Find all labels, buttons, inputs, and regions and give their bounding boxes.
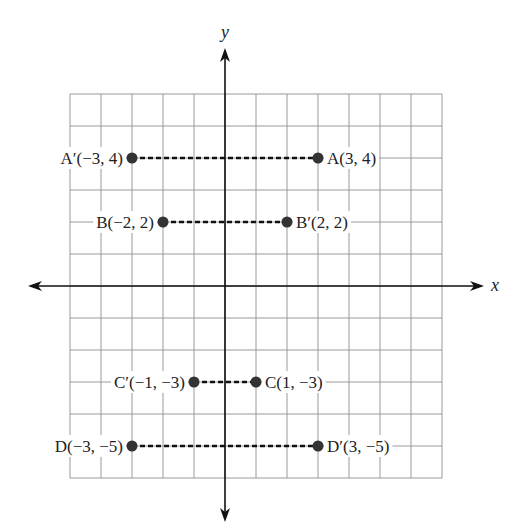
point-marker	[282, 217, 293, 228]
point-label: A(3, 4)	[327, 149, 376, 168]
point-marker	[127, 153, 138, 164]
point-label: D(−3, −5)	[55, 437, 123, 456]
point-label: B′(2, 2)	[296, 213, 348, 232]
x-axis-label: x	[490, 275, 499, 295]
point-label: D′(3, −5)	[327, 437, 389, 456]
point-label: C′(−1, −3)	[114, 373, 185, 392]
point-label: A′(−3, 4)	[61, 149, 123, 168]
coordinate-plane: x y A(3, 4)A′(−3, 4)B(−2, 2)B′(2, 2)C(1,…	[0, 0, 522, 528]
point-marker	[189, 377, 200, 388]
point-label: B(−2, 2)	[96, 213, 154, 232]
point-labels: A(3, 4)A′(−3, 4)B(−2, 2)B′(2, 2)C(1, −3)…	[52, 147, 393, 457]
y-axis-label: y	[219, 22, 229, 42]
point-marker	[313, 441, 324, 452]
point-marker	[158, 217, 169, 228]
point-marker	[127, 441, 138, 452]
point-marker	[313, 153, 324, 164]
point-marker	[251, 377, 262, 388]
point-label: C(1, −3)	[265, 373, 323, 392]
